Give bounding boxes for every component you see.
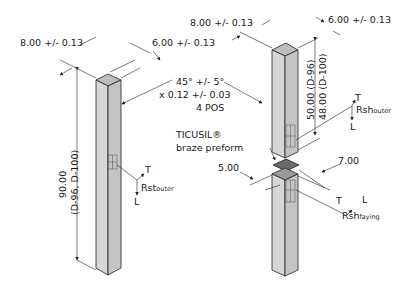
left-gauge-l-axis: L	[134, 197, 139, 207]
lower-gauge-l-axis: L	[362, 195, 367, 205]
chamfer-size: x 0.12 +/- 0.03	[159, 90, 231, 100]
upper-length-d100: 48.00 (D-100)	[318, 53, 328, 120]
left-bar-side	[108, 80, 121, 275]
left-length-value: 90.00	[58, 171, 68, 198]
left-gauge-label: Rstouter	[141, 183, 174, 193]
preform-dimension-5: 5.00	[218, 163, 239, 173]
left-gauge-t-axis: T	[145, 165, 151, 175]
left-length-variants: (D-96, D-100)	[70, 150, 80, 215]
left-gauge-subscript: outer	[156, 185, 173, 193]
left-bar	[96, 74, 121, 275]
left-bar-front	[96, 80, 108, 275]
right-upper-bar	[272, 43, 298, 158]
upper-gauge-label: Rshouter	[356, 105, 391, 115]
upper-gauge-subscript: outer	[374, 107, 391, 115]
preform-dimension-7: 7.00	[338, 156, 359, 166]
preform-label-desc: braze preform	[176, 143, 243, 153]
preform-label-name: TICUSIL®	[176, 130, 222, 140]
left-depth-dimension: 6.00 +/- 0.13	[152, 38, 215, 48]
upper-gauge-name: Rsh	[356, 104, 374, 115]
upper-gauge-l-axis: L	[350, 122, 355, 132]
lower-gauge-t-axis: T	[336, 196, 342, 206]
lower-gauge-label: Rshfaying	[342, 211, 380, 221]
upper-gauge-t-axis: T	[355, 93, 361, 103]
chamfer-count: 4 POS	[196, 103, 224, 113]
left-width-dimension: 8.00 +/- 0.13	[20, 38, 83, 48]
right-lower-bar	[272, 168, 298, 276]
left-gauge-name: Rst	[141, 182, 156, 193]
right-depth-dimension: 6.00 +/- 0.13	[328, 15, 391, 25]
lower-gauge-name: Rsh	[342, 210, 360, 221]
left-dimensions	[60, 37, 262, 270]
lower-gauge-subscript: faying	[360, 213, 380, 221]
upper-length-d96: 50.00 (D-96)	[306, 60, 316, 120]
right-width-dimension: 8.00 +/- 0.13	[190, 18, 253, 28]
chamfer-angle: 45° +/- 5°	[176, 77, 224, 87]
